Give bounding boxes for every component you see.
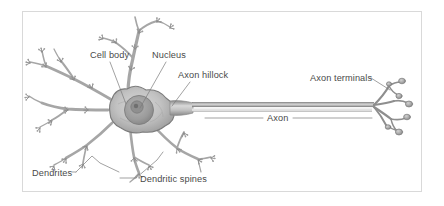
label-axon-terminals: Axon terminals bbox=[310, 74, 372, 83]
axon-terminals bbox=[374, 78, 413, 135]
cell-body-soma bbox=[110, 86, 175, 132]
label-nucleus: Nucleus bbox=[152, 51, 186, 60]
label-axon: Axon bbox=[267, 114, 288, 123]
label-axon-hillock: Axon hillock bbox=[178, 71, 228, 80]
neuron-diagram-page: Cell body Nucleus Axon hillock Axon term… bbox=[0, 0, 444, 206]
label-dendrites: Dendrites bbox=[32, 169, 72, 178]
label-cell-body: Cell body bbox=[90, 51, 129, 60]
label-dendritic-spines: Dendritic spines bbox=[140, 175, 207, 184]
